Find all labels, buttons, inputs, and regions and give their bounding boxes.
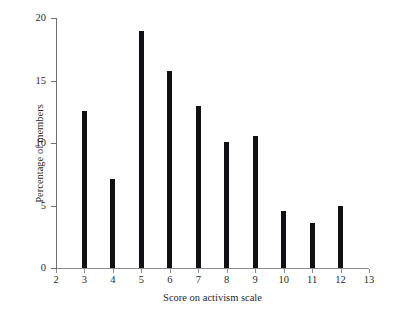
bar (82, 111, 87, 269)
x-axis-tick (369, 269, 370, 273)
figure-caption-strip (0, 0, 395, 10)
x-axis-tick (84, 269, 85, 273)
y-axis-tick-label: 5 (12, 201, 46, 211)
x-axis-tick (56, 269, 57, 273)
y-axis-tick-label: 20 (12, 13, 46, 23)
x-axis-tick (170, 269, 171, 273)
x-axis-tick-label: 11 (300, 274, 324, 286)
bar (139, 31, 144, 269)
bar (310, 223, 315, 268)
x-axis-tick (227, 269, 228, 273)
y-axis-tick-label: 10 (12, 138, 46, 148)
x-axis-tick-label: 5 (129, 274, 153, 286)
x-axis-tick-label: 4 (101, 274, 125, 286)
x-axis-tick-label: 8 (215, 274, 239, 286)
y-axis-tick (51, 81, 57, 82)
x-axis-tick (341, 269, 342, 273)
x-axis-tick-label: 6 (158, 274, 182, 286)
bar (167, 71, 172, 269)
x-axis-tick-label: 10 (272, 274, 296, 286)
x-axis-tick (141, 269, 142, 273)
x-axis-tick (113, 269, 114, 273)
x-axis-title: Score on activism scale (56, 292, 369, 303)
activism-score-bar-chart: Percentage of members 05101520 234567891… (0, 0, 395, 313)
y-axis-tick (51, 18, 57, 19)
bar (281, 211, 286, 269)
x-axis-tick-label: 7 (186, 274, 210, 286)
bar (253, 136, 258, 269)
x-axis-tick-label: 13 (357, 274, 381, 286)
x-axis-tick-label: 2 (44, 274, 68, 286)
bar (338, 206, 343, 269)
bar (224, 142, 229, 268)
y-axis-tick-label: 0 (12, 263, 46, 273)
bar (110, 179, 115, 268)
x-axis-tick-label: 9 (243, 274, 267, 286)
x-axis-line (56, 268, 369, 269)
y-axis-tick-label: 15 (12, 76, 46, 86)
bar (196, 106, 201, 269)
y-axis-tick (51, 206, 57, 207)
x-axis-tick (255, 269, 256, 273)
x-axis-tick (312, 269, 313, 273)
x-axis-tick-label: 12 (329, 274, 353, 286)
y-axis-tick (51, 143, 57, 144)
x-axis-tick (284, 269, 285, 273)
x-axis-tick (198, 269, 199, 273)
x-axis-tick-label: 3 (72, 274, 96, 286)
